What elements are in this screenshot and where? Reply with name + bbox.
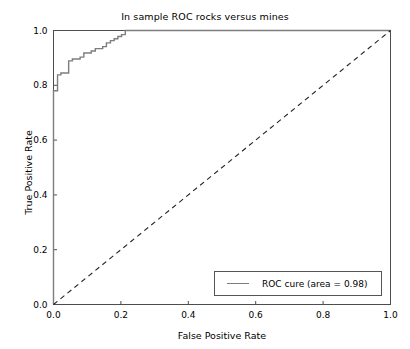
legend-swatch-roc-curve [227, 283, 249, 284]
x-tick-label: 0.6 [249, 310, 263, 320]
x-tick-label: 0.2 [114, 310, 128, 320]
roc-chart-figure: In sample ROC rocks versus mines 0.00.20… [0, 0, 410, 349]
x-axis-label: False Positive Rate [53, 330, 391, 341]
y-tick-label: 1.0 [22, 26, 48, 36]
x-tick-label: 0.0 [46, 310, 60, 320]
data-series-layer [54, 31, 391, 305]
x-tick-label: 0.8 [316, 310, 330, 320]
y-axis-label: True Positive Rate [23, 103, 34, 243]
y-tick-label: 0.8 [22, 80, 48, 90]
x-tick-label: 1.0 [383, 310, 397, 320]
y-tick-label: 0.0 [22, 300, 48, 310]
y-tick-label: 0.2 [22, 245, 48, 255]
chance-diagonal-line [54, 31, 391, 305]
legend-label-roc-curve: ROC cure (area = 0.98) [262, 279, 367, 289]
chart-legend: ROC cure (area = 0.98) [214, 271, 382, 296]
x-tick-label: 0.4 [181, 310, 195, 320]
plot-canvas [0, 0, 410, 349]
